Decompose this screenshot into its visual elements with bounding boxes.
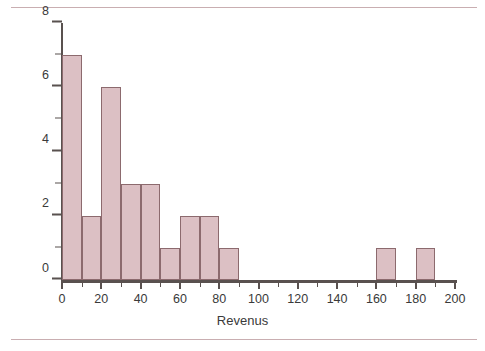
histogram-bar xyxy=(62,55,82,280)
y-axis-tick-label: 0 xyxy=(42,261,49,274)
histogram-bar xyxy=(180,216,200,280)
x-axis-minor-tick xyxy=(160,280,161,287)
x-axis-minor-tick xyxy=(82,280,83,287)
x-axis-minor-tick xyxy=(200,280,201,287)
histogram-bar xyxy=(82,216,102,280)
x-axis-tick xyxy=(61,280,63,289)
y-axis-minor-tick xyxy=(55,182,62,183)
x-axis-minor-tick xyxy=(435,280,436,287)
histogram-bar xyxy=(376,248,396,280)
y-axis-title: Effectif xyxy=(0,87,1,127)
x-axis-minor-tick xyxy=(239,280,240,287)
y-axis-minor-tick xyxy=(55,54,62,55)
y-axis-tick xyxy=(52,85,62,87)
x-axis-tick-label: 160 xyxy=(366,293,387,306)
x-axis-minor-tick xyxy=(396,280,397,287)
top-rule xyxy=(11,7,477,8)
x-axis-tick-label: 140 xyxy=(327,293,348,306)
histogram-bar xyxy=(160,248,180,280)
y-axis-tick-label: 2 xyxy=(42,197,49,210)
x-axis-tick xyxy=(297,280,299,289)
y-axis-tick xyxy=(52,21,62,23)
x-axis-tick-label: 40 xyxy=(134,293,148,306)
bottom-rule xyxy=(11,339,477,340)
x-axis-tick xyxy=(336,280,338,289)
y-axis-tick xyxy=(52,149,62,151)
x-axis-tick-label: 80 xyxy=(212,293,226,306)
x-axis-minor-tick xyxy=(121,280,122,287)
x-axis-tick xyxy=(258,280,260,289)
x-axis-tick xyxy=(415,280,417,289)
x-axis-tick-label: 0 xyxy=(59,293,66,306)
histogram-bar xyxy=(141,184,161,280)
histogram-bar xyxy=(200,216,220,280)
histogram-bar xyxy=(416,248,436,280)
x-axis-minor-tick xyxy=(317,280,318,287)
x-axis-tick xyxy=(140,280,142,289)
y-axis-minor-tick xyxy=(55,118,62,119)
x-axis-tick-label: 120 xyxy=(287,293,308,306)
x-axis-tick-label: 180 xyxy=(405,293,426,306)
x-axis-tick xyxy=(375,280,377,289)
y-axis-tick xyxy=(52,213,62,215)
x-axis-tick-label: 60 xyxy=(173,293,187,306)
x-axis-tick xyxy=(454,280,456,289)
plot-area: 02468020406080100120140160180200 xyxy=(62,23,455,280)
histogram-bar xyxy=(219,248,239,280)
x-axis-tick xyxy=(100,280,102,289)
x-axis-tick-label: 200 xyxy=(445,293,466,306)
y-axis-tick-label: 8 xyxy=(42,4,49,17)
histogram-bar xyxy=(101,87,121,280)
x-axis-tick xyxy=(218,280,220,289)
x-axis-minor-tick xyxy=(357,280,358,287)
y-axis-tick-label: 6 xyxy=(42,69,49,82)
x-axis-tick-label: 20 xyxy=(94,293,108,306)
y-axis-minor-tick xyxy=(55,246,62,247)
histogram-figure: 02468020406080100120140160180200 Effecti… xyxy=(0,0,485,351)
x-axis-minor-tick xyxy=(278,280,279,287)
x-axis-tick xyxy=(179,280,181,289)
x-axis-title: Revenus xyxy=(0,313,485,328)
y-axis-tick-label: 4 xyxy=(42,133,49,146)
x-axis-tick-label: 100 xyxy=(248,293,269,306)
histogram-bar xyxy=(121,184,141,280)
